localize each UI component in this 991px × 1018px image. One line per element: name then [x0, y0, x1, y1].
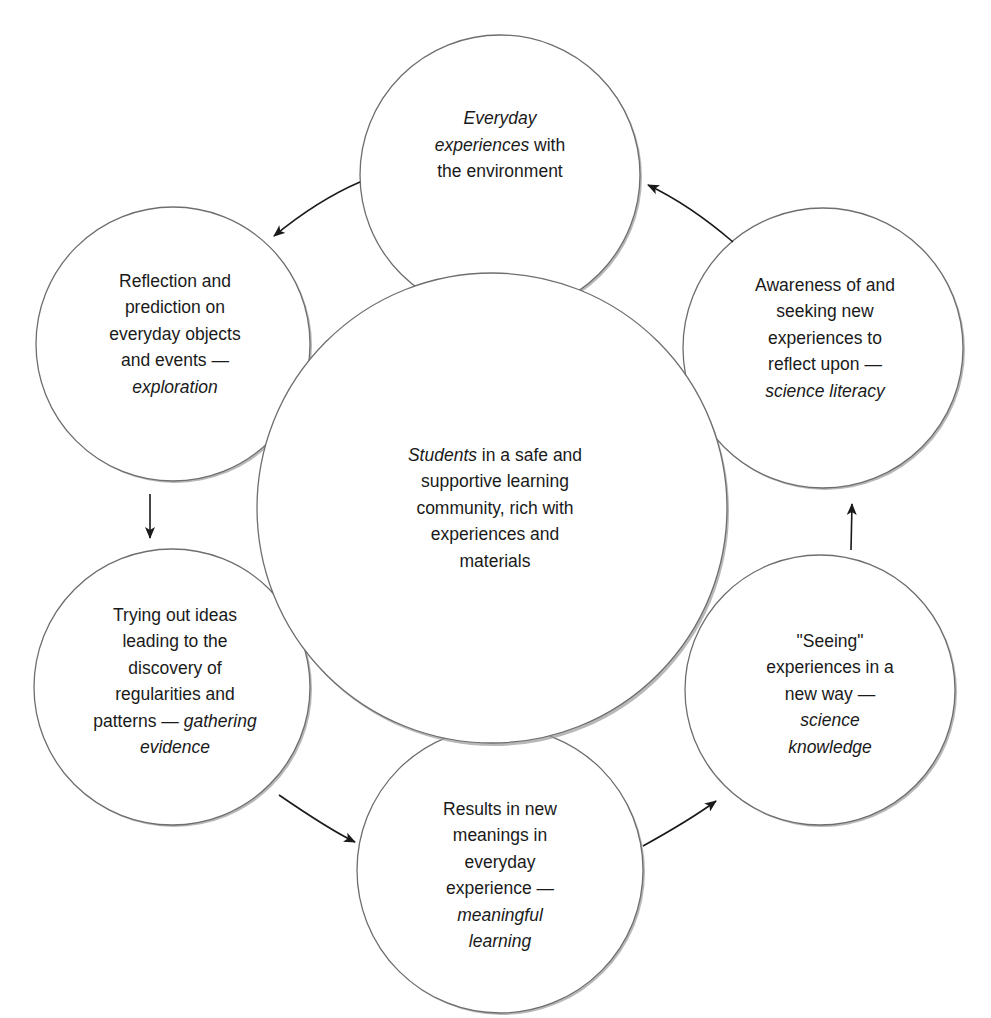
label-line: the environment [435, 158, 565, 185]
label-segment: meanings in [453, 825, 547, 845]
node-label-science-knowledge: "Seeing"experiences in anew way —science… [705, 624, 955, 764]
label-line: knowledge [766, 734, 893, 761]
label-line: Reflection and [109, 268, 240, 295]
node-label-science-literacy: Awareness of andseeking newexperiences t… [700, 268, 950, 408]
label-segment: discovery of [128, 658, 221, 678]
label-italic-term: evidence [140, 737, 210, 757]
label-segment: seeking new [776, 301, 873, 321]
label-segment: community, rich with [416, 498, 573, 518]
label-segment: Trying out ideas [113, 605, 237, 625]
label-segment: Reflection and [119, 271, 231, 291]
label-line: Trying out ideas [93, 602, 256, 629]
label-line: experiences in a [766, 654, 893, 681]
label-line: everyday objects [109, 321, 240, 348]
label-segment: prediction on [125, 297, 225, 317]
label-italic-term: experiences [435, 135, 529, 155]
label-line: learning [443, 928, 557, 955]
label-segment: everyday [464, 852, 535, 872]
label-segment: experiences and [431, 524, 559, 544]
label-italic-term: science [800, 710, 859, 730]
label-segment: the environment [437, 161, 563, 181]
label-line: reflect upon — [755, 351, 895, 378]
label-line: Awareness of and [755, 272, 895, 299]
label-line: seeking new [755, 298, 895, 325]
node-label-gathering-evidence: Trying out ideasleading to thediscovery … [50, 596, 300, 766]
label-segment: new way — [785, 684, 875, 704]
label-segment: everyday objects [109, 324, 240, 344]
label-segment: experiences to [768, 328, 882, 348]
label-italic-term: exploration [132, 377, 218, 397]
label-line: regularities and [93, 681, 256, 708]
node-label-text: "Seeing"experiences in anew way —science… [766, 628, 893, 761]
label-italic-term: meaningful [457, 905, 543, 925]
label-italic-term: Everyday [464, 108, 537, 128]
arrow-literacy-to-everyday [648, 185, 733, 242]
label-line: patterns — gathering [93, 708, 256, 735]
arrow-knowledge-to-literacy [851, 504, 852, 550]
label-line: exploration [109, 374, 240, 401]
label-segment: experiences in a [766, 657, 893, 677]
label-segment: leading to the [122, 631, 227, 651]
node-label-text: Reflection andprediction oneveryday obje… [109, 268, 240, 401]
label-line: leading to the [93, 628, 256, 655]
label-italic-term: knowledge [788, 737, 872, 757]
label-segment: Results in new [443, 799, 557, 819]
label-line: Results in new [443, 796, 557, 823]
label-line: everyday [443, 849, 557, 876]
label-line: materials [408, 548, 582, 575]
label-line: experiences with [435, 132, 565, 159]
label-segment: and events — [121, 350, 229, 370]
node-label-meaningful-learning: Results in newmeanings ineverydayexperie… [380, 790, 620, 960]
label-line: discovery of [93, 655, 256, 682]
label-line: meaningful [443, 902, 557, 929]
label-line: supportive learning [408, 468, 582, 495]
node-label-text: Students in a safe andsupportive learnin… [408, 442, 582, 575]
label-italic-term: science literacy [765, 381, 885, 401]
label-line: Everyday [435, 105, 565, 132]
node-label-text: Trying out ideasleading to thediscovery … [93, 602, 256, 761]
label-segment: Awareness of and [755, 275, 895, 295]
label-line: meanings in [443, 822, 557, 849]
label-segment: patterns — [93, 711, 183, 731]
label-segment: in a safe and [477, 445, 582, 465]
label-line: "Seeing" [766, 628, 893, 655]
node-label-text: Everydayexperiences withthe environment [435, 105, 565, 185]
label-line: experience — [443, 875, 557, 902]
label-segment: with [529, 135, 565, 155]
arrow-gathering-to-meaningful [279, 795, 355, 842]
label-italic-term: gathering [184, 711, 257, 731]
label-segment: regularities and [115, 684, 235, 704]
arrow-everyday-to-exploration [274, 182, 360, 236]
label-line: Students in a safe and [408, 442, 582, 469]
label-line: and events — [109, 347, 240, 374]
label-segment: reflect upon — [768, 354, 882, 374]
label-segment: "Seeing" [797, 631, 864, 651]
node-label-everyday-experiences: Everydayexperiences withthe environment [380, 95, 620, 195]
label-segment: supportive learning [421, 471, 569, 491]
node-label-text: Awareness of andseeking newexperiences t… [755, 272, 895, 405]
label-line: evidence [93, 734, 256, 761]
label-line: community, rich with [408, 495, 582, 522]
arrow-meaningful-to-knowledge [643, 801, 716, 846]
node-label-exploration: Reflection andprediction oneveryday obje… [50, 264, 300, 404]
label-segment: materials [460, 551, 531, 571]
label-italic-term: Students [408, 445, 477, 465]
label-segment: experience — [446, 878, 554, 898]
node-label-center: Students in a safe andsupportive learnin… [330, 428, 660, 588]
label-line: experiences and [408, 521, 582, 548]
label-line: prediction on [109, 294, 240, 321]
node-label-text: Results in newmeanings ineverydayexperie… [443, 796, 557, 955]
label-line: science literacy [755, 378, 895, 405]
label-line: experiences to [755, 325, 895, 352]
label-italic-term: learning [469, 931, 531, 951]
label-line: new way — [766, 681, 893, 708]
label-line: science [766, 707, 893, 734]
